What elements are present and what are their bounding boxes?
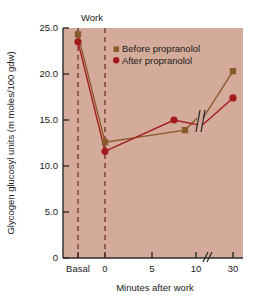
x-tick-label-5: 5	[149, 263, 154, 274]
data-point-before-8	[182, 127, 188, 133]
data-point-before-basal	[75, 31, 81, 37]
chart-figure: 0 5.0 10.0 15.0 20.0 25.0 Basal 0 5 10 3…	[0, 0, 255, 302]
x-tick-label-10: 10	[191, 263, 202, 274]
legend-square-marker-icon	[114, 47, 120, 53]
y-tick-label-15: 15.0	[40, 114, 59, 125]
x-tick-label-basal: Basal	[66, 263, 90, 274]
data-point-after-0	[101, 148, 108, 155]
legend-circle-marker-icon	[113, 57, 119, 63]
y-tick-label-10: 10.0	[40, 160, 59, 171]
data-point-before-30	[230, 68, 236, 74]
work-annotation-label: Work	[81, 12, 103, 23]
data-point-after-30	[229, 94, 236, 101]
legend-label-before: Before propranolol	[122, 43, 200, 54]
x-tick-label-0: 0	[102, 263, 107, 274]
data-point-before-0	[102, 139, 108, 145]
y-tick-label-25: 25.0	[40, 22, 59, 33]
chart-legend: Before propranolol After propranolol	[113, 43, 200, 66]
legend-label-after: After propranolol	[122, 55, 192, 66]
data-point-after-7	[170, 116, 177, 123]
y-tick-label-20: 20.0	[40, 68, 59, 79]
glycogen-line-chart: 0 5.0 10.0 15.0 20.0 25.0 Basal 0 5 10 3…	[0, 0, 255, 302]
y-tick-label-5: 5.0	[45, 206, 58, 217]
x-axis-title: Minutes after work	[116, 282, 194, 293]
x-tick-label-30: 30	[228, 263, 239, 274]
data-point-after-basal	[74, 38, 81, 45]
y-tick-label-0: 0	[53, 252, 58, 263]
y-axis-title: Glycogen glucosyl units (m moles/100 gdw…	[5, 51, 16, 234]
